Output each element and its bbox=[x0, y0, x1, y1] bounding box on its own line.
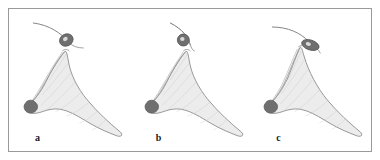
panel-b-drawing bbox=[130, 9, 251, 151]
panel-a-drawing bbox=[9, 9, 130, 151]
panel-a-body-group bbox=[24, 50, 122, 137]
body-funnel-shape bbox=[148, 51, 243, 136]
panel-b-filament-group bbox=[170, 23, 194, 51]
body-funnel-shape bbox=[27, 51, 122, 136]
panel-c: c bbox=[250, 9, 371, 151]
figure-plate: a bbox=[0, 0, 380, 160]
panel-a: a bbox=[9, 9, 130, 151]
panel-b-body-group bbox=[145, 50, 243, 137]
panel-row: a bbox=[9, 9, 371, 151]
panel-label-c: c bbox=[276, 133, 280, 143]
dark-wedge-tip bbox=[145, 100, 158, 113]
panel-label-a: a bbox=[35, 133, 40, 143]
panel-b: b bbox=[130, 9, 251, 151]
body-funnel-shape bbox=[267, 47, 362, 136]
filament-curve-icon bbox=[273, 27, 309, 41]
filament-tail-icon bbox=[190, 45, 194, 51]
panel-a-filament-group bbox=[33, 23, 83, 49]
apex-neck-line bbox=[62, 50, 69, 52]
apex-neck-line bbox=[183, 50, 190, 52]
dark-oval-blob-highlight bbox=[180, 37, 184, 41]
dark-wedge-tip bbox=[24, 100, 37, 113]
panel-c-drawing bbox=[250, 9, 371, 151]
dark-wedge-tip bbox=[264, 100, 277, 113]
panel-c-body-group bbox=[264, 46, 362, 137]
panel-label-b: b bbox=[156, 133, 162, 143]
panel-c-filament-group bbox=[273, 27, 321, 53]
